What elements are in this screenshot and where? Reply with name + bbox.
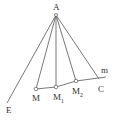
- segment-AM: [36, 15, 56, 89]
- segment-AC: [56, 15, 99, 79]
- segment-AM2: [56, 15, 76, 81]
- label-C: C: [98, 84, 104, 94]
- label-M2-sub: 2: [80, 92, 83, 98]
- line-m: [36, 77, 106, 89]
- label-M1-sub: 1: [61, 98, 64, 104]
- label-M: M: [32, 93, 40, 103]
- label-M1: M: [53, 92, 61, 102]
- point-M: [34, 87, 38, 91]
- label-E: E: [6, 105, 12, 115]
- diagram-svg: A E M M 1 M 2 C m: [0, 0, 120, 138]
- point-M2: [74, 79, 78, 83]
- segment-AE: [7, 15, 56, 103]
- label-M2: M: [72, 86, 80, 96]
- label-line-m: m: [101, 65, 108, 75]
- point-M1: [54, 85, 58, 89]
- point-A: [55, 14, 58, 17]
- label-A: A: [53, 2, 60, 12]
- geometry-diagram: A E M M 1 M 2 C m: [0, 0, 120, 138]
